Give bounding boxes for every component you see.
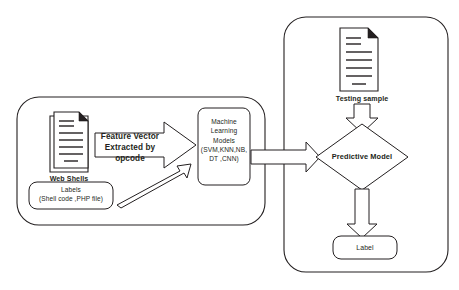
ml-models-box [198,108,250,185]
labels-to-models-arrow [117,164,191,208]
diagram-canvas [0,0,459,290]
models-to-predictive-arrow [251,142,320,172]
predictive-model-diamond [316,124,408,190]
flowchart-diagram: Web Shells Labels (Shell code ,PHP file)… [0,0,459,290]
labels-box [29,182,113,209]
document-icon [340,28,378,91]
feature-vector-arrow [95,122,196,168]
label-output-box [333,236,397,259]
stacked-document-icon [50,112,88,172]
predictive-to-label-arrow [347,189,377,238]
